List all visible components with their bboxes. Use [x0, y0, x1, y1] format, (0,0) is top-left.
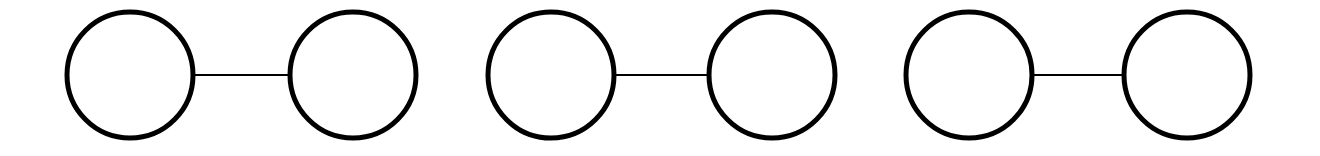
node-left: [488, 12, 614, 138]
node-left: [906, 12, 1032, 138]
node-pair-3: [906, 12, 1250, 138]
graph-diagram: [0, 0, 1320, 156]
node-right: [1124, 12, 1250, 138]
node-pair-1: [67, 12, 416, 138]
node-right: [290, 12, 416, 138]
node-pair-2: [488, 12, 835, 138]
node-left: [67, 12, 193, 138]
diagram-canvas: [0, 0, 1320, 156]
node-right: [709, 12, 835, 138]
